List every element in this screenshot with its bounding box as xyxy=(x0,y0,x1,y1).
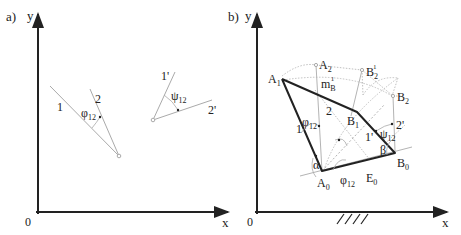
pivot-point xyxy=(117,154,121,158)
panel-a: a) y x 0 1 2 φ12 1' 2' ψ12 xyxy=(6,8,229,230)
point-B21-label: B21 xyxy=(366,63,378,81)
y-axis-label: y xyxy=(245,8,252,23)
link-2-prime-label: 2' xyxy=(396,118,404,132)
origin-label: 0 xyxy=(25,215,31,229)
phi-label-top: φ12 xyxy=(302,115,317,131)
x-axis-label: x xyxy=(222,215,229,230)
ground-hatch xyxy=(337,214,368,224)
panel-b: b) y x 0 xyxy=(228,8,449,230)
point-B0-label: B0 xyxy=(397,156,409,172)
point-A2-label: A2 xyxy=(319,58,332,74)
panel-b-label: b) xyxy=(228,9,239,24)
psi-label: ψ12 xyxy=(380,127,396,143)
link-2-label: 2 xyxy=(326,104,332,118)
point-A0-label: A0 xyxy=(317,176,330,192)
line-2-label: 2 xyxy=(95,92,101,106)
midline-label: mB1 xyxy=(321,75,336,93)
line-1-label: 1 xyxy=(57,100,63,114)
panel-a-label: a) xyxy=(6,9,16,24)
phi-label: φ12 xyxy=(81,106,96,122)
y-axis-label: y xyxy=(27,8,34,23)
point-B2-label: B2 xyxy=(397,90,409,106)
x-axis-label: x xyxy=(442,215,449,230)
point-E0-label: E0 xyxy=(366,171,377,187)
line-1-prime-label: 1' xyxy=(161,69,169,83)
diagram-canvas: a) y x 0 1 2 φ12 1' 2' ψ12 b) y x 0 xyxy=(0,0,461,235)
psi-label: ψ12 xyxy=(171,89,187,105)
origin-label: 0 xyxy=(247,215,253,229)
link-1-prime-label: 1' xyxy=(365,130,373,144)
line-2-prime-label: 2' xyxy=(208,103,216,117)
link-1-label: 1 xyxy=(296,122,302,136)
point-A1-label: A1 xyxy=(268,72,281,88)
beta-label: β xyxy=(380,143,386,157)
line-1 xyxy=(50,86,119,156)
alpha-label: α xyxy=(313,158,320,172)
point-B1-label: B1 xyxy=(347,114,359,130)
phi-label-bottom: φ12 xyxy=(340,173,355,189)
